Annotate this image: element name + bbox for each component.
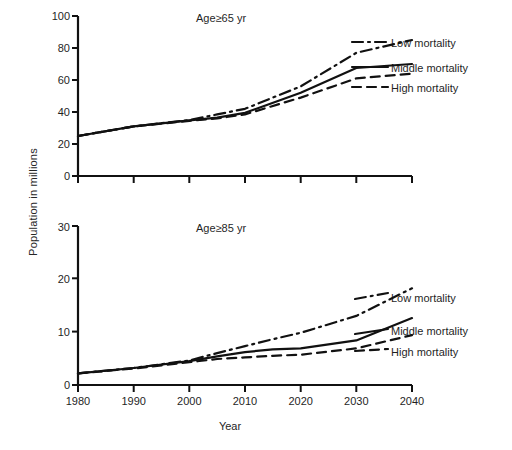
axis-lines-bottom	[78, 226, 412, 385]
figure-root: Population in millions Year Age≥65 yr 10…	[0, 0, 512, 450]
axis-lines-top	[78, 16, 412, 176]
legend-swatch-bottom-high	[355, 349, 388, 351]
chart-top-age65	[0, 0, 512, 210]
series-line-bottom-low-mortality	[78, 288, 412, 373]
chart-bottom-age85	[0, 210, 512, 410]
legend-swatch-bottom-low	[355, 293, 388, 299]
series-line-top-high-mortality	[78, 74, 412, 136]
x-axis-title: Year	[190, 420, 270, 432]
series-line-top-low-mortality	[78, 40, 412, 136]
series-line-top-middle-mortality	[78, 64, 412, 136]
